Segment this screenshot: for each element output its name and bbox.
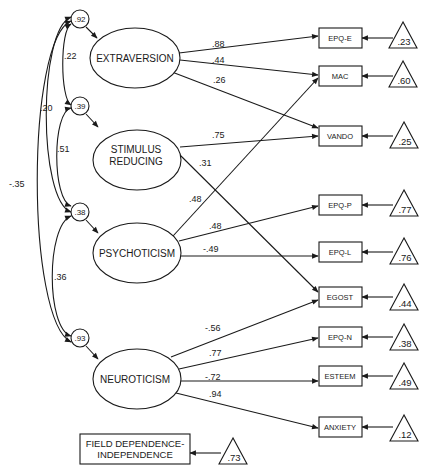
field-dependence-label-line2: INDEPENDENCE: [97, 449, 173, 460]
latent-label-stimulus: STIMULUS: [111, 144, 162, 155]
loading-label: .48: [209, 221, 222, 231]
error-label: .25: [398, 136, 411, 147]
correlation-label: -.35: [9, 179, 25, 189]
indicator-label: EPQ-P: [328, 201, 351, 210]
loading-label: -.49: [203, 244, 219, 254]
correlation-label: .36: [54, 272, 67, 282]
disturbance-label: .92: [74, 15, 86, 24]
error-label: .38: [398, 338, 411, 349]
field-dependence-label-line1: FIELD DEPENDENCE-: [86, 438, 185, 449]
disturbance-label: .93: [74, 334, 86, 343]
loading-arrow: [172, 72, 318, 128]
loading-arrow: [179, 206, 318, 241]
loading-arrow: [180, 60, 318, 75]
correlation-label: .51: [57, 144, 70, 154]
loading-arrow: [171, 300, 318, 357]
indicator-label: VANDO: [327, 132, 353, 141]
loading-arrow: [180, 136, 318, 147]
latent-label-reducing: REDUCING: [109, 156, 163, 167]
latent-label-neuroticism: NEUROTICISM: [100, 374, 170, 385]
correlation-label: .20: [40, 103, 53, 113]
loading-label: .31: [199, 158, 212, 168]
indicator-label: EPQ-N: [328, 333, 352, 342]
field-dependence-error-label: .73: [227, 452, 240, 463]
correlation-label: .22: [64, 51, 77, 61]
correlation-arrow-92-93: [37, 21, 71, 342]
loading-arrow: [179, 36, 318, 53]
disturbance-label: .38: [74, 208, 86, 217]
error-label: .44: [398, 298, 411, 309]
error-label: .49: [398, 377, 411, 388]
loading-arrow: [176, 393, 318, 428]
disturbance-arrow: [86, 220, 98, 233]
loading-label: -.56: [205, 323, 221, 333]
error-label: .77: [398, 204, 411, 215]
loading-label: -.72: [205, 372, 221, 382]
correlation-arrow-92-39: [63, 24, 71, 105]
loading-label: .75: [212, 130, 225, 140]
loading-label: .88: [212, 39, 225, 49]
disturbance-arrow: [86, 114, 98, 127]
latent-label-extraversion: EXTRAVERSION: [96, 53, 174, 64]
correlation-arrow-39-38: [57, 108, 71, 206]
loading-label: .26: [213, 75, 226, 85]
indicator-label: ANXIETY: [324, 423, 356, 432]
error-label: .60: [397, 75, 410, 86]
disturbance-arrow: [86, 346, 98, 359]
loading-label: .77: [209, 348, 222, 358]
error-label: .12: [398, 429, 411, 440]
sem-diagram: .92 .39 .38 .93 .22 .20 .51 -.35 .36 EXT…: [0, 0, 429, 472]
error-label: .23: [397, 36, 410, 47]
loading-arrow: [179, 338, 318, 369]
indicator-label: ESTEEM: [325, 372, 356, 381]
loading-label: .48: [189, 194, 202, 204]
latent-label-psychoticism: PSYCHOTICISM: [99, 248, 175, 259]
indicator-label: EGOST: [327, 293, 354, 302]
disturbance-label: .39: [74, 102, 86, 111]
indicator-label: EPQ-L: [329, 248, 352, 257]
loading-label: .94: [209, 389, 222, 399]
error-label: .76: [398, 252, 411, 263]
disturbance-arrow: [86, 27, 97, 38]
loading-label: .44: [212, 55, 225, 65]
indicator-label: MAC: [332, 72, 349, 81]
indicator-label: EPQ-E: [328, 34, 351, 43]
loading-arrow: [173, 78, 318, 236]
